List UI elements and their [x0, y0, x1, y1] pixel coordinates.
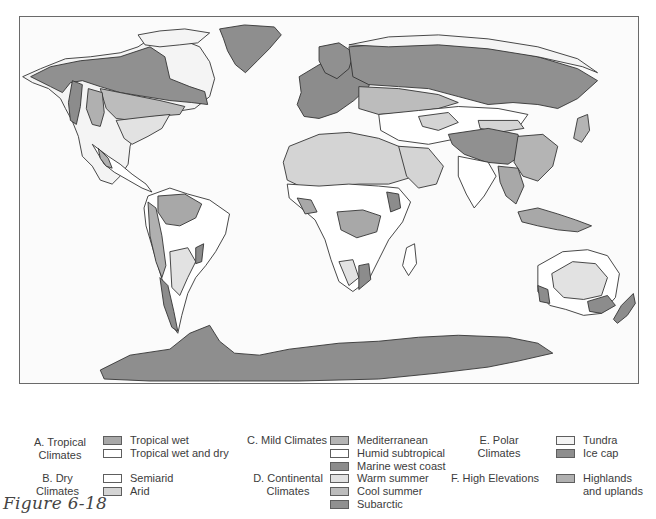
legend-item-cool-summer: Cool summer	[330, 485, 422, 498]
legend-label: Tropical wet	[130, 434, 189, 447]
legend-item-marine-west-coast: Marine west coast	[330, 460, 446, 473]
legend-group-high-elevations-title: F. High Elevations	[450, 472, 540, 485]
swatch-warm-summer	[330, 474, 349, 483]
region-madagascar	[403, 244, 417, 276]
legend-group-tropical-line1: A. Tropical	[30, 436, 90, 449]
swatch-humid-subtropical	[330, 449, 349, 458]
legend-item-humid-subtropical: Humid subtropical	[330, 447, 445, 460]
legend-label: Marine west coast	[357, 460, 446, 473]
legend-item-ice-cap: Ice cap	[556, 447, 618, 460]
swatch-mediterranean	[330, 436, 349, 445]
legend-label-line2: and uplands	[583, 485, 643, 498]
figure-caption: Figure 6-18	[3, 493, 107, 513]
region-japan	[574, 114, 590, 142]
region-sahara	[283, 132, 413, 188]
legend-item-subarctic: Subarctic	[330, 498, 403, 511]
legend-item-semiarid: Semiarid	[103, 472, 173, 485]
swatch-tropical-wet-dry	[103, 449, 122, 458]
swatch-semiarid	[103, 474, 122, 483]
legend-item-warm-summer: Warm summer	[330, 472, 429, 485]
legend-item-tropical-wet: Tropical wet	[103, 434, 189, 447]
region-south-africa	[359, 264, 371, 290]
legend-item-arid: Arid	[103, 485, 150, 498]
swatch-marine-west-coast	[330, 462, 349, 471]
legend-label: Subarctic	[357, 498, 403, 511]
legend-group-polar-line1: E. Polar Climates	[458, 434, 540, 460]
swatch-ice-cap	[556, 449, 575, 458]
legend-label: Ice cap	[583, 447, 618, 460]
legend-item-tundra: Tundra	[556, 434, 617, 447]
legend-label: Tundra	[583, 434, 617, 447]
legend-group-tropical-title: A. Tropical Climates	[30, 436, 90, 462]
legend-group-high-elevations-line1: F. High Elevations	[450, 472, 540, 485]
swatch-tundra	[556, 436, 575, 445]
legend-item-highlands: Highlands and uplands	[556, 472, 643, 498]
legend-group-continental-line1: D. Continental	[250, 472, 326, 485]
swatch-cool-summer	[330, 487, 349, 496]
legend-label: Humid subtropical	[357, 447, 445, 460]
legend-label: Arid	[130, 485, 150, 498]
region-arctic-islands	[138, 29, 210, 47]
region-east-asia	[514, 134, 558, 181]
region-indonesia	[518, 208, 592, 232]
legend-label: Semiarid	[130, 472, 173, 485]
legend-group-continental-line2: Climates	[250, 485, 326, 498]
legend-item-tropical-wet-dry: Tropical wet and dry	[103, 447, 229, 460]
legend-label: Warm summer	[357, 472, 429, 485]
region-new-zealand	[613, 293, 635, 323]
legend-label: Tropical wet and dry	[130, 447, 229, 460]
legend-label-line1: Highlands	[583, 472, 643, 485]
region-greenland	[220, 25, 282, 73]
legend-group-mild-line1: C. Mild Climates	[244, 434, 330, 447]
legend-label: Highlands and uplands	[583, 472, 643, 498]
region-arabia	[399, 146, 444, 188]
legend-label: Cool summer	[357, 485, 422, 498]
legend-group-tropical-line2: Climates	[30, 449, 90, 462]
legend-group-continental-title: D. Continental Climates	[250, 472, 326, 498]
region-antarctica	[100, 325, 553, 381]
legend-label: Mediterranean	[357, 434, 428, 447]
legend-group-polar-title: E. Polar Climates	[458, 434, 540, 460]
region-india	[458, 156, 496, 208]
legend-group-mild-title: C. Mild Climates	[244, 434, 330, 447]
world-climate-map	[19, 16, 639, 384]
map-svg	[20, 17, 638, 383]
swatch-subarctic	[330, 500, 349, 509]
swatch-tropical-wet	[103, 436, 122, 445]
swatch-highlands	[556, 474, 575, 483]
legend-item-mediterranean: Mediterranean	[330, 434, 428, 447]
